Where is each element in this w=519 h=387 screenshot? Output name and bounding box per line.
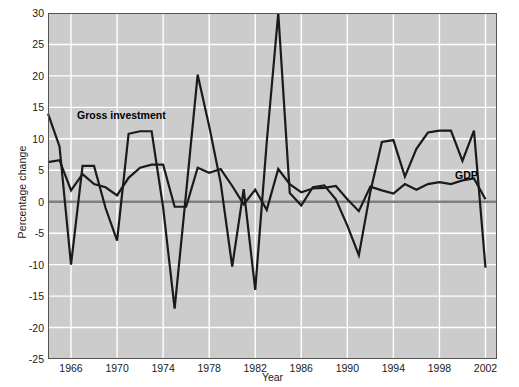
y-axis-tick-label: -20 [4, 323, 44, 333]
series-label-gross-investment: Gross investment [77, 109, 166, 121]
y-axis-tick-label: -10 [4, 260, 44, 270]
y-axis-tick-label: 15 [4, 102, 44, 112]
y-axis-tick-label: -25 [4, 354, 44, 364]
y-axis-tick-label: 25 [4, 39, 44, 49]
y-axis-tick-label: -15 [4, 291, 44, 301]
plot-area [0, 0, 519, 387]
chart-figure: 302520151050-5-10-15-20-25 Percentage ch… [0, 0, 519, 387]
y-axis-title: Percentage change [16, 132, 28, 252]
y-axis-tick-label: 30 [4, 8, 44, 18]
x-axis-title: Year [48, 371, 497, 383]
y-axis-tick-label: 20 [4, 71, 44, 81]
series-label-gdp: GDP [455, 169, 478, 181]
